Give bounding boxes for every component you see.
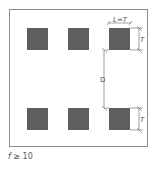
square-top-middle — [68, 28, 89, 50]
height-label-bottom: T — [140, 116, 145, 124]
height-label-top: T — [140, 36, 145, 44]
squares — [27, 28, 130, 130]
square-bottom-middle — [68, 108, 89, 130]
square-bottom-right — [109, 108, 130, 130]
square-top-right — [109, 28, 130, 50]
width-label: L=T — [113, 16, 128, 24]
square-bottom-left — [27, 108, 48, 130]
caption-relation: ≥ 10 — [11, 152, 33, 161]
square-top-left — [27, 28, 48, 50]
condition-caption: f ≥ 10 — [8, 152, 33, 161]
square-pattern-diagram: L=T T D T — [0, 0, 158, 169]
spacing-label: D — [100, 76, 105, 84]
